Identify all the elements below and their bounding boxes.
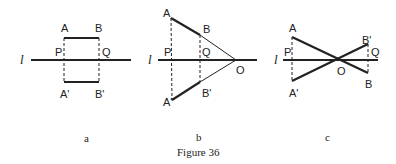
label-A-prime: A' [163, 96, 172, 108]
label-B: B [365, 78, 372, 90]
segment-AB [171, 18, 200, 35]
segment-AB [292, 37, 368, 73]
label-O: O [236, 64, 245, 76]
label-l: l [148, 52, 152, 67]
label-B: B [203, 23, 210, 35]
label-B-prime: B' [362, 34, 371, 46]
segment-A-prime-B-prime [172, 82, 200, 100]
label-A-prime: A' [289, 87, 298, 99]
label-A: A [61, 22, 69, 34]
label-l: l [20, 52, 24, 67]
figure-caption: Figure 36 [177, 146, 220, 158]
label-P: P [55, 46, 62, 58]
panel-c-labels: l A B P Q O A' B' c [274, 22, 380, 143]
dashed-AA-prime [171, 18, 172, 100]
label-O: O [337, 65, 346, 77]
label-Q: Q [371, 46, 380, 58]
label-A: A [289, 22, 297, 34]
label-Q: Q [102, 46, 111, 58]
label-Q: Q [202, 46, 211, 58]
panel-a [31, 38, 131, 82]
label-P: P [164, 46, 171, 58]
segment-A-prime-B-prime [292, 44, 368, 81]
label-A-prime: A' [60, 88, 69, 100]
label-A: A [163, 7, 171, 19]
sublabel-b: b [196, 131, 202, 143]
label-l: l [274, 52, 278, 67]
sublabel-c: c [325, 131, 330, 143]
segment-B-prime-O [200, 60, 236, 82]
figure-36: l A B P Q A' B' a l A B P Q O A' B' b l [0, 0, 396, 164]
panel-b-labels: l A B P Q O A' B' b [148, 7, 245, 143]
label-B-prime: B' [95, 88, 104, 100]
sublabel-a: a [84, 132, 89, 144]
label-P: P [284, 46, 291, 58]
label-B-prime: B' [202, 87, 211, 99]
label-B: B [95, 22, 102, 34]
